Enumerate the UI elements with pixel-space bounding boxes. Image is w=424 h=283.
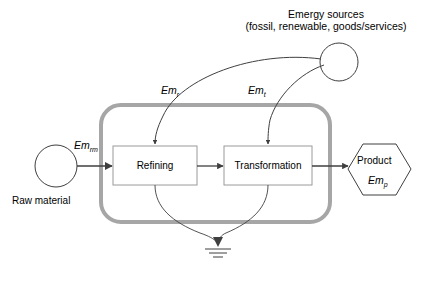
- process-label-refining: Refining: [113, 160, 197, 172]
- waste-curve-refining: [155, 185, 217, 242]
- process-label-transformation: Transformation: [224, 160, 312, 172]
- flow-label-em-r-prefix: Em: [161, 84, 177, 96]
- raw-material-circle: [35, 145, 77, 187]
- emergy-sources-title-line1: Emergy sources: [288, 8, 364, 20]
- flow-label-em-rm: Emrm: [74, 139, 98, 154]
- flow-curve-em-r: [155, 57, 321, 144]
- flow-label-em-t: Emt: [248, 84, 266, 99]
- flow-label-em-p: Emp: [368, 174, 388, 189]
- waste-arrowhead: [213, 237, 223, 247]
- flow-label-em-r: Emr: [161, 84, 179, 99]
- emergy-systems-diagram: Emergy sources (fossil, renewable, goods…: [0, 0, 424, 283]
- flow-label-em-r-sub: r: [177, 91, 179, 98]
- emergy-sources-circle: [320, 43, 358, 81]
- flow-label-em-t-prefix: Em: [248, 84, 264, 96]
- product-label: Product: [357, 155, 391, 167]
- waste-curve-transformation: [218, 185, 268, 242]
- flow-label-em-t-sub: t: [264, 91, 266, 98]
- flow-label-em-p-prefix: Em: [368, 174, 384, 186]
- raw-material-label: Raw material: [12, 195, 70, 207]
- emergy-sources-title: Emergy sources (fossil, renewable, goods…: [233, 8, 419, 32]
- flow-label-em-rm-sub: rm: [90, 146, 98, 153]
- diagram-canvas: [0, 0, 424, 283]
- flow-label-em-rm-prefix: Em: [74, 139, 90, 151]
- flow-label-em-p-sub: p: [384, 181, 388, 188]
- emergy-sources-title-line2: (fossil, renewable, goods/services): [233, 20, 419, 32]
